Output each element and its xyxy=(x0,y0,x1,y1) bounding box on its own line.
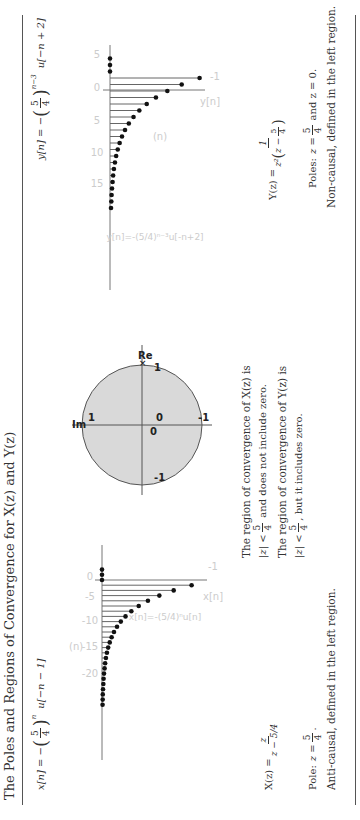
den-pre: z² xyxy=(273,158,283,166)
x-transform-fraction: z z − 5/4 xyxy=(258,724,279,757)
stem-point xyxy=(110,186,115,191)
x-stems xyxy=(100,567,194,707)
x-pole-equation: Pole: z = 54. xyxy=(302,727,323,790)
x-value-tick: -1 xyxy=(208,561,218,572)
stem-point xyxy=(117,141,122,146)
y-poles-equation: Poles: z = 54 and z = 0. xyxy=(302,69,323,188)
roc-y-line1: The region of convergence of Y(z) is xyxy=(276,366,288,558)
stem-point xyxy=(146,599,151,604)
roc-y-ineq: |z| < xyxy=(293,534,304,558)
den-fraction: 54 xyxy=(270,127,287,136)
x-transform-equation: X(z) = z z − 5/4 xyxy=(258,722,279,790)
tick-im-1: 1 xyxy=(88,412,95,423)
pole-fraction: 54 xyxy=(302,733,323,743)
svg-text:-15: -15 xyxy=(82,641,98,652)
stem-point xyxy=(189,583,194,588)
stem-point xyxy=(114,154,119,159)
roc-y-tail: , but it includes zero. xyxy=(293,413,304,520)
frac-num: 5 xyxy=(252,523,263,533)
stem-point xyxy=(108,56,113,61)
den-inner: z − xyxy=(273,138,283,153)
frac-num: 5 xyxy=(30,728,41,738)
paren-open: ( xyxy=(269,153,287,158)
stem-point xyxy=(109,199,114,204)
svg-text:0: 0 xyxy=(94,82,100,93)
x-description: Anti-causal, defined in the left region. xyxy=(325,588,337,790)
svg-text:-10: -10 xyxy=(82,615,98,626)
y-n-axis-label: (n) xyxy=(153,131,167,142)
poles-tail: and z = 0. xyxy=(307,69,318,121)
stem-point xyxy=(137,108,142,113)
y-stem-plot: 5 0 5 10 15 -1 (n) y[n]=-(5/4)ⁿ⁻³u[-n+2]… xyxy=(45,10,225,300)
roc-x-line1: The region of convergence of X(z) is xyxy=(240,365,252,558)
stem-point xyxy=(119,619,124,624)
svg-text:15: 15 xyxy=(91,178,104,189)
pole-eq: z = xyxy=(307,744,318,761)
stem-point xyxy=(106,645,111,650)
roc-y-line2: |z| < 54 , but it includes zero. xyxy=(288,413,309,558)
frac-num: 1 xyxy=(258,138,269,148)
x-signal-exponent: n xyxy=(30,715,38,720)
frac-den: 4 xyxy=(299,525,309,531)
stem-point xyxy=(120,134,125,139)
stem-point xyxy=(105,651,110,656)
stem-point xyxy=(154,95,159,100)
pole-label: Pole: xyxy=(307,765,318,790)
stem-point xyxy=(109,206,114,211)
roc-unit-circle: ✕ Re Im 1 -1 1 -1 0 0 xyxy=(70,325,220,495)
stem-point xyxy=(131,115,136,120)
svg-text:0: 0 xyxy=(87,571,93,582)
y-value-tick: -1 xyxy=(210,71,220,82)
frac-den: 4 xyxy=(279,129,287,134)
stem-point xyxy=(102,671,107,676)
stem-point xyxy=(108,69,113,74)
tick-re-neg1: -1 xyxy=(154,472,165,483)
svg-text:10: 10 xyxy=(91,147,104,158)
stem-point xyxy=(197,76,202,81)
frac-den: 4 xyxy=(313,127,323,133)
paren-close: ) xyxy=(269,119,287,124)
stem-point xyxy=(100,697,105,702)
stem-point xyxy=(136,604,141,609)
roc-x-line2: |z| < 54 and does not include zero. xyxy=(252,384,273,558)
y-transform-fraction: 1 z² ( z − 54 ) xyxy=(258,119,287,167)
stem-point xyxy=(115,147,120,152)
stem-point xyxy=(101,677,106,682)
frac-num: 5 xyxy=(30,98,41,108)
roc-y-fraction: 54 xyxy=(288,523,309,533)
x-n-axis-label: (n) xyxy=(69,641,83,652)
im-axis-label: Im xyxy=(72,419,86,430)
y-plot-legend: y[n]=-(5/4)ⁿ⁻³u[-n+2] xyxy=(106,232,203,242)
y-signal-exponent: n−3 xyxy=(30,74,38,89)
stem-point xyxy=(165,89,170,94)
x-stem-plot: 0 -5 -10 -15 -20 -1 (n) x[n]=-(5/4)ⁿu[n]… xyxy=(45,530,225,780)
stem-point xyxy=(109,193,114,198)
tick-re-1: 1 xyxy=(154,362,161,373)
y-value-axis-label: y[n] xyxy=(200,96,220,107)
stem-point xyxy=(115,625,120,630)
stem-point xyxy=(112,167,117,172)
svg-text:5: 5 xyxy=(94,115,100,126)
y-transform-lhs: Y(z) = xyxy=(267,169,278,200)
stem-point xyxy=(104,656,109,661)
frac-num: 5 xyxy=(302,733,313,743)
x-transform-lhs: X(z) = xyxy=(263,758,274,790)
stem-point xyxy=(123,128,128,133)
stem-point xyxy=(103,661,108,666)
poles-fraction: 54 xyxy=(302,125,323,135)
document-page: The Poles and Regions of Convergence for… xyxy=(0,0,360,820)
stem-point xyxy=(100,692,105,697)
frac-num: 5 xyxy=(288,523,299,533)
stem-point xyxy=(102,666,107,671)
stem-point xyxy=(109,635,114,640)
table-title: The Poles and Regions of Convergence for… xyxy=(2,432,17,800)
frac-num: z xyxy=(258,736,269,745)
stem-point xyxy=(179,82,184,87)
stem-point xyxy=(107,640,112,645)
frac-den: 4 xyxy=(263,525,273,531)
stem-point xyxy=(112,630,117,635)
stem-point xyxy=(100,567,105,572)
stem-point xyxy=(157,593,162,598)
x-plot-legend: x[n]=-(5/4)ⁿu[n] xyxy=(129,612,201,622)
stem-point xyxy=(101,682,106,687)
